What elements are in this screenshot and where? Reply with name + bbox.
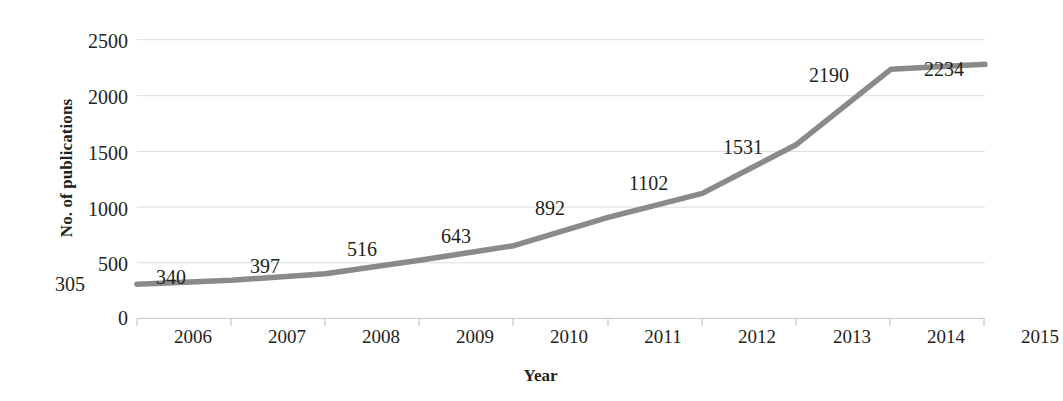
x-tick-label: 2011 [618,327,708,346]
data-label: 1531 [723,137,763,157]
x-tick-label: 2009 [430,327,520,346]
data-label: 305 [55,274,85,294]
x-tick-label: 2015 [995,327,1063,346]
y-tick-label: 2000 [8,87,128,107]
x-tick-label: 2010 [524,327,614,346]
y-tick-label: 0 [8,308,128,328]
data-label: 516 [347,239,377,259]
plot-area: 305 340 397 516 643 892 1102 1531 2190 2… [137,34,985,319]
x-tick-label: 2008 [336,327,426,346]
x-tick-label: 2007 [242,327,332,346]
x-tick-label: 2006 [148,327,238,346]
x-tick-label: 2014 [901,327,991,346]
x-tick-label: 2012 [712,327,802,346]
x-axis-ticks [137,319,984,327]
data-label: 397 [250,256,280,276]
data-label: 2190 [809,65,849,85]
x-axis-title: Year [0,366,1025,386]
x-tick-label: 2013 [807,327,897,346]
data-label: 643 [441,226,471,246]
data-label: 1102 [629,173,668,193]
data-label: 2234 [924,59,964,79]
y-tick-label: 1500 [8,143,128,163]
y-tick-label: 500 [8,254,128,274]
y-tick-label: 2500 [8,31,128,51]
data-label: 892 [535,198,565,218]
data-series-line [137,64,985,284]
y-tick-label: 1000 [8,199,128,219]
data-label: 340 [156,267,186,287]
